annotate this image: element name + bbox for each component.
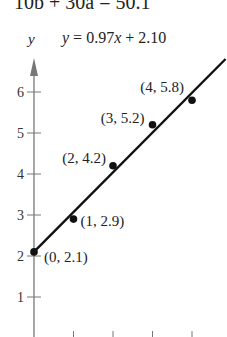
data-point <box>30 248 38 256</box>
y-tick-label: 2 <box>17 249 24 264</box>
y-tick-label: 3 <box>17 208 24 223</box>
data-point <box>149 121 157 129</box>
data-point-label: (2, 4.2) <box>62 150 106 167</box>
data-point <box>70 215 78 223</box>
y-tick-label: 1 <box>17 290 24 305</box>
data-point <box>188 96 196 104</box>
scatter-plot: 123456(0, 2.1)(1, 2.9)(2, 4.2)(3, 5.2)(4… <box>0 0 227 337</box>
y-tick-label: 4 <box>17 167 24 182</box>
data-point-label: (0, 2.1) <box>44 249 88 266</box>
data-point-label: (1, 2.9) <box>81 213 125 230</box>
data-point-label: (3, 5.2) <box>101 110 145 127</box>
data-point-label: (4, 5.8) <box>140 79 184 96</box>
y-axis-arrow-icon <box>30 58 38 76</box>
data-point <box>109 162 117 170</box>
y-tick-label: 6 <box>17 85 24 100</box>
y-tick-label: 5 <box>17 126 24 141</box>
